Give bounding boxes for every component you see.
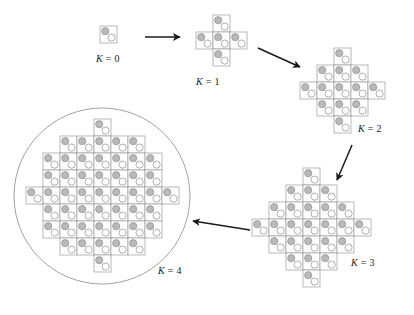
filled-dot [28, 189, 35, 196]
label-k-symbol: K [196, 76, 203, 87]
tile [269, 236, 286, 253]
tile [252, 219, 269, 236]
open-dot [328, 244, 335, 251]
open-dot [204, 40, 211, 47]
tile [128, 153, 145, 170]
open-dot [328, 227, 335, 234]
filled-dot [370, 84, 377, 91]
filled-dot [339, 238, 346, 245]
open-dot [85, 212, 92, 219]
tile [230, 32, 247, 49]
tile [320, 219, 337, 236]
tile [77, 187, 94, 204]
tile [128, 204, 145, 221]
filled-dot [130, 189, 137, 196]
filled-dot [79, 138, 86, 145]
open-dot [221, 40, 228, 47]
tile [77, 170, 94, 187]
tile [303, 219, 320, 236]
filled-dot [130, 206, 137, 213]
tile [303, 185, 320, 202]
open-dot [68, 229, 75, 236]
tile [351, 99, 368, 116]
tile [303, 236, 320, 253]
open-dot [68, 212, 75, 219]
filled-dot [353, 84, 360, 91]
filled-dot [288, 221, 295, 228]
tile [368, 82, 385, 99]
label-equals: = [365, 123, 377, 134]
tile [303, 168, 320, 185]
tile-cluster-k2 [300, 48, 385, 133]
filled-dot [322, 204, 329, 211]
filled-dot [322, 221, 329, 228]
tile [334, 48, 351, 65]
filled-dot [79, 155, 86, 162]
open-dot [342, 124, 349, 131]
filled-dot [353, 67, 360, 74]
filled-dot [96, 240, 103, 247]
open-dot [342, 56, 349, 63]
open-dot [311, 278, 318, 285]
tile [337, 202, 354, 219]
open-dot [345, 244, 352, 251]
open-dot [221, 23, 228, 30]
tile [60, 153, 77, 170]
tile [77, 136, 94, 153]
filled-dot [319, 101, 326, 108]
tile [317, 82, 334, 99]
label-equals: = [165, 265, 177, 276]
filled-dot [102, 28, 109, 35]
open-dot [345, 210, 352, 217]
open-dot [294, 261, 301, 268]
open-dot [102, 178, 109, 185]
stage-label-k3: K = 3 [351, 257, 375, 268]
open-dot [170, 195, 177, 202]
open-dot [294, 227, 301, 234]
filled-dot [288, 187, 295, 194]
tile [77, 238, 94, 255]
label-k-value: 1 [215, 76, 220, 87]
tile [320, 202, 337, 219]
tile [111, 170, 128, 187]
open-dot [345, 227, 352, 234]
open-dot [153, 178, 160, 185]
open-dot [119, 195, 126, 202]
open-dot [153, 195, 160, 202]
tile [60, 204, 77, 221]
tile [286, 185, 303, 202]
tile [196, 32, 213, 49]
tile [94, 238, 111, 255]
arrow-k1-k2 [258, 48, 300, 67]
open-dot [51, 195, 58, 202]
open-dot [68, 195, 75, 202]
filled-dot [305, 187, 312, 194]
filled-dot [130, 223, 137, 230]
tile [43, 204, 60, 221]
tile [60, 221, 77, 238]
label-k-value: 0 [115, 53, 120, 64]
open-dot [102, 246, 109, 253]
open-dot [85, 229, 92, 236]
open-dot [342, 73, 349, 80]
open-dot [359, 90, 366, 97]
open-dot [328, 210, 335, 217]
open-dot [34, 195, 41, 202]
open-dot [311, 210, 318, 217]
filled-dot [62, 240, 69, 247]
filled-dot [356, 221, 363, 228]
open-dot [328, 261, 335, 268]
filled-dot [336, 84, 343, 91]
open-dot [277, 244, 284, 251]
open-dot [308, 90, 315, 97]
filled-dot [353, 101, 360, 108]
filled-dot [79, 223, 86, 230]
open-dot [362, 227, 369, 234]
arrow-k3-k4 [193, 221, 250, 230]
label-k-value: 4 [177, 265, 182, 276]
tile [213, 49, 230, 66]
open-dot [102, 263, 109, 270]
tile [320, 236, 337, 253]
filled-dot [322, 187, 329, 194]
open-dot [153, 212, 160, 219]
